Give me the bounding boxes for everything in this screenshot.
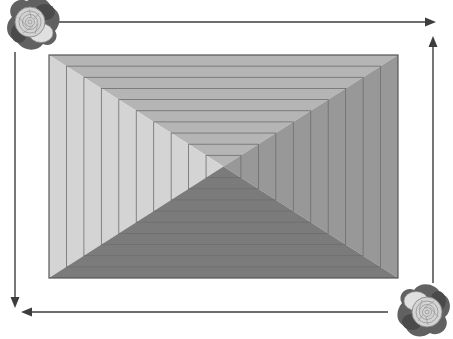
top-arrow-head-icon	[425, 18, 436, 27]
rose-bottom-right-icon	[397, 284, 450, 336]
tunnel-rectangle	[49, 55, 398, 278]
left-arrow-head-icon	[11, 297, 20, 308]
illusion-figure-stage	[0, 0, 453, 339]
rose-top-left-flower	[15, 7, 45, 37]
bottom-arrow	[21, 308, 388, 317]
right-arrow-head-icon	[429, 36, 438, 47]
bottom-arrow-head-icon	[21, 308, 32, 317]
left-arrow	[11, 52, 20, 308]
tunnel-illusion-figure	[0, 0, 453, 339]
top-arrow	[58, 18, 436, 27]
right-arrow	[429, 36, 438, 283]
rose-bottom-right-flower	[412, 297, 442, 327]
rose-top-left-icon	[7, 0, 60, 50]
